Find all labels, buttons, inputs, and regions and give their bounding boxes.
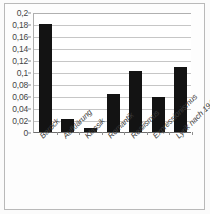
y-axis-tick-label: 0,1 — [17, 69, 28, 78]
y-axis-tick-label: 0,08 — [12, 81, 28, 90]
y-axis-tick-label: 0,02 — [12, 117, 28, 126]
y-axis-tick-label: 0,18 — [12, 21, 28, 30]
y-axis-tick — [28, 97, 31, 98]
y-axis-tick-label: 0,16 — [12, 33, 28, 42]
plot-area — [33, 13, 191, 133]
y-axis-tick-label: 0,2 — [17, 9, 28, 18]
bar — [39, 24, 52, 132]
y-axis-tick — [28, 13, 31, 14]
y-axis-tick — [28, 49, 31, 50]
y-axis-tick-label: 0,12 — [12, 57, 28, 66]
x-axis-tick — [192, 132, 193, 135]
y-axis-tick — [28, 109, 31, 110]
y-axis-tick — [28, 121, 31, 122]
y-axis-tick — [28, 133, 31, 134]
y-axis-tick-label: 0,06 — [12, 93, 28, 102]
y-axis-tick-label: 0,04 — [12, 105, 28, 114]
y-axis-tick — [28, 37, 31, 38]
y-axis-tick-label: 0,14 — [12, 45, 28, 54]
y-axis-tick — [28, 61, 31, 62]
bar-chart-figure: 00,020,040,060,080,10,120,140,160,180,2 … — [0, 0, 210, 214]
x-axis-labels: BarockAufklärungKlassikRomantikRealismus… — [33, 134, 191, 204]
y-axis-tick — [28, 85, 31, 86]
y-axis-tick — [28, 73, 31, 74]
y-axis-tick — [28, 25, 31, 26]
bars-group — [34, 13, 191, 132]
y-axis-labels: 00,020,040,060,080,10,120,140,160,180,2 — [0, 13, 31, 133]
